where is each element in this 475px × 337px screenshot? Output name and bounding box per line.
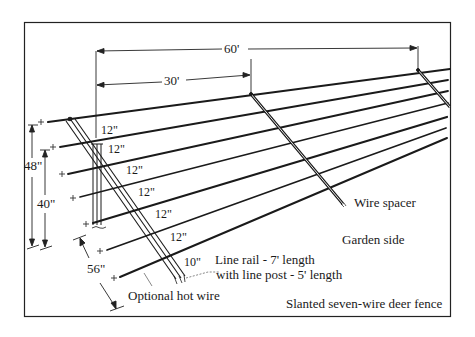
spacing-label-1: 12"	[101, 124, 118, 136]
wire-spacer-2	[417, 69, 451, 108]
spacing-label-5: 12"	[155, 208, 172, 220]
spacing-label-3: 12"	[126, 164, 143, 176]
wire-4	[80, 103, 448, 197]
dimension-56in-label: 56"	[87, 262, 105, 275]
dimension-60ft-label: 60'	[224, 42, 239, 55]
hot-wire-label: Optional hot wire	[128, 289, 220, 302]
leader-lines	[144, 272, 220, 286]
wire-spacer-label: Wire spacer	[354, 196, 416, 209]
caption: Slanted seven-wire deer fence	[286, 297, 442, 310]
dimension-48in-label: 48"	[24, 159, 42, 172]
line-post	[91, 144, 106, 228]
spacing-label-7: 10"	[184, 256, 201, 268]
line-rail-label: Line rail - 7' length	[215, 253, 315, 266]
dimension-40in-label: 40"	[37, 197, 55, 210]
spacing-label-2: 12"	[108, 143, 125, 155]
garden-side-label: Garden side	[342, 233, 404, 246]
dimension-48in	[27, 125, 39, 249]
dimension-30ft-label: 30'	[164, 74, 179, 87]
spacing-label-6: 12"	[170, 231, 187, 243]
spacing-label-4: 12"	[138, 186, 155, 198]
dimension-60ft	[96, 46, 418, 139]
line-post-label: with line post - 5' length	[216, 268, 342, 281]
